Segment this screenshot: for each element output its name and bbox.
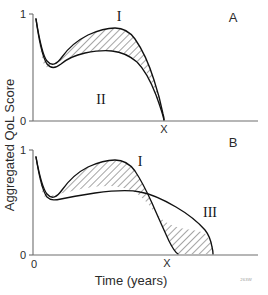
panel-b-y-tick-label-top: 1	[20, 144, 26, 156]
qol-figure: 1 0 I II X A 1	[0, 0, 268, 295]
figure-root: 1 0 I II X A 1	[0, 0, 268, 295]
panel-b-x-origin-label: 0	[31, 258, 37, 270]
panel-a-x-event-label: X	[160, 123, 168, 135]
x-axis-title: Time (years)	[95, 273, 167, 288]
panel-b-region-label-iii: III	[203, 205, 217, 220]
y-axis-title: Aggregated QoL Score	[2, 79, 17, 212]
panel-b-x-event-label: X	[163, 257, 171, 269]
panel-a-y-tick-label-bottom: 0	[20, 115, 26, 127]
panel-a-y-tick-label-top: 1	[20, 8, 26, 20]
panel-b-y-tick-label-bottom: 0	[20, 249, 26, 261]
panel-a-region-label-ii: II	[96, 92, 106, 107]
panel-b-region-label-i: I	[138, 154, 143, 169]
panel-a: 1 0 I II X A	[20, 8, 258, 135]
panel-b: 1 0 0 I III X B	[20, 135, 258, 270]
panel-a-letter: A	[229, 10, 238, 25]
panel-a-region-label-i: I	[117, 9, 122, 24]
panel-b-letter: B	[229, 135, 238, 150]
corner-code-label: 263W	[240, 277, 252, 282]
